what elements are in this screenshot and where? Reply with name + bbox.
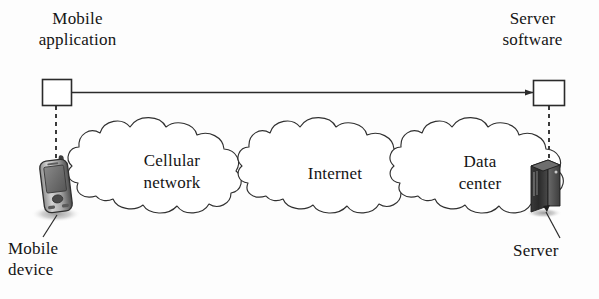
- mobile-device-label: Mobile device: [8, 238, 108, 280]
- cellular-network-label: Cellular network: [112, 150, 232, 194]
- server-power-led: [555, 171, 558, 174]
- server-software-box: [534, 81, 565, 106]
- internet-label: Internet: [280, 163, 390, 185]
- server-software-label: Server software: [470, 8, 595, 50]
- network-architecture-diagram: Mobile application Server software Mobil…: [0, 0, 599, 299]
- mobile-application-label: Mobile application: [10, 8, 145, 50]
- server-tower: [526, 160, 562, 218]
- mobile-application-box: [43, 80, 72, 106]
- phone-screen: [44, 165, 67, 193]
- server-label: Server: [513, 240, 599, 261]
- data-center-label: Data center: [430, 151, 530, 195]
